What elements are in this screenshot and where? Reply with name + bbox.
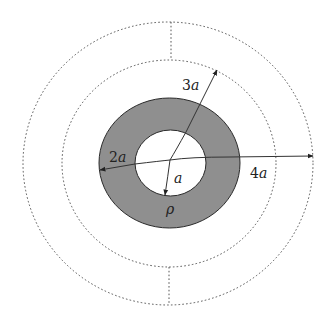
label-a: a [174, 170, 182, 186]
label-4a: 4a [250, 165, 267, 181]
shell-diagram: 3a 4a 2a a ρ [0, 0, 334, 319]
label-rho: ρ [165, 201, 175, 217]
label-3a: 3a [182, 77, 199, 93]
label-2a: 2a [109, 149, 126, 165]
